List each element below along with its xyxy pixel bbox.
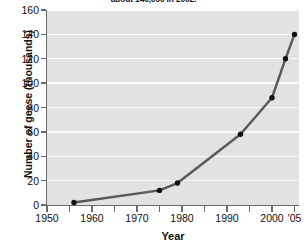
chart-title: about 140,000 in 2002. <box>0 0 307 4</box>
gridline <box>47 131 299 132</box>
y-axis-tick-label: 0 <box>33 200 39 210</box>
x-axis-title: Year <box>47 230 299 242</box>
x-axis-tick-label: '05 <box>288 213 302 224</box>
gridline <box>47 82 299 83</box>
x-axis-minor-tick <box>114 206 115 212</box>
y-axis-line <box>46 10 47 206</box>
x-axis-minor-tick <box>69 206 70 212</box>
plot-area <box>47 10 299 205</box>
y-axis-tick <box>41 9 46 10</box>
y-axis-tick <box>41 58 46 59</box>
gridline <box>47 9 299 10</box>
x-axis-tick-label: 1980 <box>170 213 193 224</box>
goose-population-line-chart: about 140,000 in 2002. 02040608010012014… <box>0 0 307 249</box>
gridline <box>47 180 299 181</box>
x-axis-tick-label: 1990 <box>215 213 238 224</box>
y-axis-tick <box>41 34 46 35</box>
x-axis-tick-label: 1960 <box>80 213 103 224</box>
gridline <box>47 58 299 59</box>
x-axis-tick-label: 1970 <box>125 213 148 224</box>
y-axis-tick <box>41 131 46 132</box>
y-axis-tick <box>41 204 46 205</box>
y-axis-title: Number of geese (thousands) <box>22 14 34 194</box>
gridline <box>47 34 299 35</box>
x-axis-line <box>46 205 299 206</box>
x-axis-minor-tick <box>159 206 160 212</box>
x-axis-tick-label: 1950 <box>35 213 58 224</box>
x-axis-tick-label: 2000 <box>260 213 283 224</box>
x-axis-minor-tick <box>249 206 250 212</box>
y-axis-tick <box>41 82 46 83</box>
y-axis-tick <box>41 156 46 157</box>
x-axis-minor-tick <box>204 206 205 212</box>
y-axis-tick <box>41 180 46 181</box>
gridline <box>47 107 299 108</box>
gridline <box>47 156 299 157</box>
y-axis-tick <box>41 107 46 108</box>
